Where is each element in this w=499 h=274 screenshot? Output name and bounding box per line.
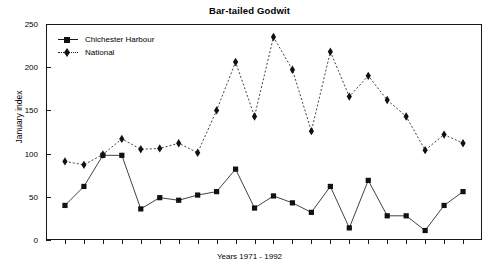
data-point-square: [309, 210, 314, 215]
data-point-square: [62, 203, 67, 208]
series-line: [65, 155, 463, 230]
x-tick-mark: [217, 240, 218, 244]
data-point-diamond: [157, 144, 162, 152]
y-tick-label: 150: [8, 106, 38, 115]
x-tick-mark: [349, 240, 350, 244]
data-point-diamond: [62, 157, 67, 165]
y-axis: January index: [8, 24, 42, 240]
chart-legend: Chichester Harbour National: [57, 33, 207, 59]
data-point-diamond: [290, 66, 295, 74]
x-tick-mark: [255, 240, 256, 244]
data-point-diamond: [271, 33, 276, 41]
data-point-square: [460, 189, 465, 194]
data-point-square: [347, 225, 352, 230]
x-tick-mark: [65, 240, 66, 244]
y-tick-label: 50: [8, 192, 38, 201]
data-point-square: [252, 205, 257, 210]
data-point-square: [423, 228, 428, 233]
data-point-square: [366, 178, 371, 183]
data-point-square: [404, 213, 409, 218]
x-axis-title: Years 1971 - 1992: [0, 252, 499, 261]
data-point-diamond: [176, 139, 181, 147]
data-point-diamond: [119, 135, 124, 143]
y-tick-mark: [46, 197, 51, 198]
data-point-diamond: [138, 145, 143, 153]
y-tick-label: 250: [8, 20, 38, 29]
y-tick-mark: [46, 154, 51, 155]
data-point-diamond: [441, 130, 446, 138]
legend-item-chichester-harbour[interactable]: Chichester Harbour: [57, 33, 207, 46]
data-point-square: [290, 200, 295, 205]
y-tick-label: 0: [8, 236, 38, 245]
data-point-diamond: [214, 106, 219, 114]
x-tick-mark: [84, 240, 85, 244]
legend-label: Chichester Harbour: [79, 35, 154, 44]
x-tick-mark: [444, 240, 445, 244]
data-point-square: [233, 167, 238, 172]
x-tick-mark: [368, 240, 369, 244]
legend-item-national[interactable]: National: [57, 46, 207, 59]
x-tick-mark: [463, 240, 464, 244]
data-point-square: [195, 192, 200, 197]
x-tick-mark: [179, 240, 180, 244]
data-point-diamond: [347, 92, 352, 100]
x-tick-mark: [141, 240, 142, 244]
data-point-square: [214, 189, 219, 194]
data-point-diamond: [460, 139, 465, 147]
chart-figure: Bar-tailed Godwit January index Chichest…: [0, 0, 499, 274]
data-point-square: [157, 195, 162, 200]
series-chichester-harbour: [62, 153, 465, 233]
legend-marker-diamond-icon: [57, 47, 79, 58]
data-point-square: [385, 213, 390, 218]
data-point-diamond: [81, 161, 86, 169]
chart-title: Bar-tailed Godwit: [0, 5, 499, 16]
data-point-diamond: [195, 149, 200, 157]
legend-label: National: [79, 48, 114, 57]
x-tick-mark: [160, 240, 161, 244]
data-point-square: [138, 206, 143, 211]
x-tick-mark: [330, 240, 331, 244]
y-tick-label: 200: [8, 63, 38, 72]
x-tick-mark: [311, 240, 312, 244]
data-point-diamond: [233, 58, 238, 66]
y-tick-mark: [46, 110, 51, 111]
x-tick-mark: [292, 240, 293, 244]
data-point-square: [441, 203, 446, 208]
y-tick-label: 100: [8, 149, 38, 158]
data-point-square: [176, 198, 181, 203]
legend-marker-square-icon: [57, 34, 79, 45]
data-point-square: [81, 184, 86, 189]
x-tick-mark: [236, 240, 237, 244]
data-point-diamond: [252, 112, 257, 120]
x-tick-mark: [198, 240, 199, 244]
x-tick-mark: [387, 240, 388, 244]
x-tick-mark: [425, 240, 426, 244]
x-tick-mark: [122, 240, 123, 244]
data-point-square: [119, 153, 124, 158]
y-tick-mark: [46, 24, 51, 25]
x-tick-mark: [273, 240, 274, 244]
data-point-square: [328, 184, 333, 189]
data-point-diamond: [328, 47, 333, 55]
data-point-diamond: [309, 127, 314, 135]
y-tick-mark: [46, 240, 51, 241]
x-tick-mark: [406, 240, 407, 244]
data-point-square: [271, 193, 276, 198]
y-tick-mark: [46, 67, 51, 68]
x-tick-mark: [103, 240, 104, 244]
